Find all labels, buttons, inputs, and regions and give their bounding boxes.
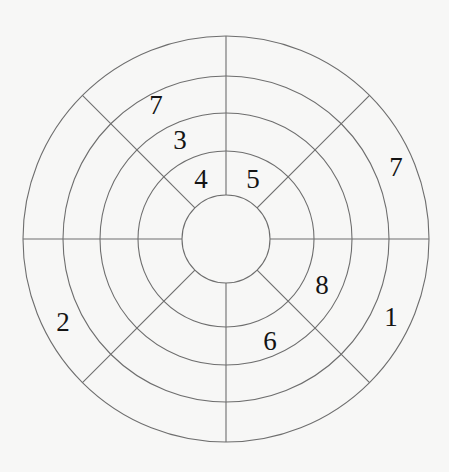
spoke-225 xyxy=(82,270,194,382)
number-label-top-left-third: 3 xyxy=(173,125,187,155)
number-label-top-right-inner: 5 xyxy=(246,164,260,194)
radial-spokes xyxy=(23,36,429,442)
number-label-top-left-inner: 4 xyxy=(194,164,208,194)
center-circle xyxy=(182,195,270,283)
number-label-bottom-right-outer: 1 xyxy=(384,302,398,332)
ring-diagram: 7 3 4 5 7 2 8 6 1 xyxy=(0,0,449,472)
number-label-left-outer: 2 xyxy=(56,307,70,337)
number-label-bottom-right-second: 8 xyxy=(315,270,329,300)
spoke-45 xyxy=(257,95,369,207)
number-label-bottom-third: 6 xyxy=(263,326,277,356)
number-label-right-outer: 7 xyxy=(389,152,403,182)
number-label-top-left-outer: 7 xyxy=(149,90,163,120)
